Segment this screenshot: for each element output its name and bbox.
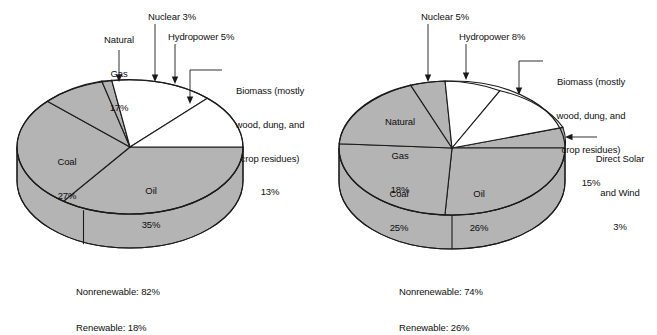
summary-renewable-left: Renewable: 18% [76,322,256,334]
summary-nonrenewable-left: Nonrenewable: 82% [76,286,256,298]
pie-chart-panel-right: Nuclear 5% Hydropower 8% Biomass (mostly… [329,0,657,302]
callout-biomass-line3: crop residues) [218,153,322,164]
slice-label-oil-value-left: 35% [129,219,173,230]
callout-natural-gas-line1: Natural [88,34,150,45]
summary-left: Nonrenewable: 82% Renewable: 18% [76,262,256,335]
slice-label-ng-line2-right: Gas [369,150,431,161]
pie-chart-panel-left: Natural Gas 17% Nuclear 3% Hydropower 5%… [0,0,328,302]
callout-solar-line3: 3% [587,221,653,232]
slice-label-coal-value-right: 25% [374,222,424,233]
summary-nonrenewable-right: Nonrenewable: 74% [399,286,579,298]
callout-biomass-line1-right: Biomass (mostly [539,76,643,87]
callout-hydropower-left: Hydropower 5% [168,31,268,42]
slice-label-ng-line1-right: Natural [369,116,431,127]
callout-biomass-line2: wood, dung, and [218,119,322,130]
callout-natural-gas-left: Natural Gas 17% [88,12,150,135]
callout-solar-line1: Direct Solar [587,153,653,164]
callout-natural-gas-line3: 17% [88,102,150,113]
callout-hydropower-right: Hydropower 8% [459,31,563,42]
slice-label-coal-right: Coal 25% [374,166,424,256]
callout-nuclear-right: Nuclear 5% [421,11,501,22]
callout-biomass-line4: 13% [218,186,322,197]
callout-nuclear-left: Nuclear 3% [148,11,228,22]
slice-label-coal-value-left: 27% [42,190,92,201]
callout-solar-line2: and Wind [587,187,653,198]
slice-label-coal-name-left: Coal [42,156,92,167]
callout-direct-solar-wind-right: Direct Solar and Wind 3% [587,131,653,254]
summary-renewable-right: Renewable: 26% [399,322,579,334]
slice-label-coal-left: Coal 27% [42,134,92,224]
slice-label-oil-name-left: Oil [129,185,173,196]
slice-label-oil-right: Oil 26% [457,166,501,256]
callout-biomass-line2-right: wood, dung, and [539,110,643,121]
slice-label-oil-value-right: 26% [457,222,501,233]
summary-right: Nonrenewable: 74% Renewable: 26% [399,262,579,335]
slice-label-coal-name-right: Coal [374,188,424,199]
callout-biomass-left: Biomass (mostly wood, dung, and crop res… [218,63,322,220]
callout-natural-gas-line2: Gas [88,68,150,79]
callout-biomass-line1: Biomass (mostly [218,85,322,96]
slice-label-oil-left: Oil 35% [129,163,173,253]
slice-label-oil-name-right: Oil [457,188,501,199]
